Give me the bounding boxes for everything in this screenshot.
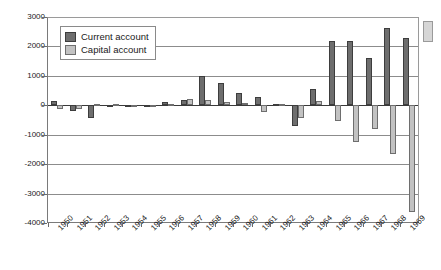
x-axis-tick-mark [233,223,234,227]
bar-group [233,18,252,222]
bar-capital-account [242,103,248,105]
x-axis-tick-mark [141,223,142,227]
bar-group [326,18,345,222]
y-axis-tick-label: 3000 [5,13,45,21]
bar-group [159,18,178,222]
x-axis-tick-mark [381,223,382,227]
bar-group [289,18,308,222]
legend-item-capital-account: Capital account [65,43,149,56]
bar-group [363,18,382,222]
bar-capital-account [353,105,359,142]
bar-capital-account [205,100,211,106]
bar-capital-account [113,104,119,106]
y-axis-tick-mark [42,164,47,165]
bar-current-account [88,105,94,117]
bar-capital-account [150,105,156,107]
bar-current-account [384,28,390,105]
x-axis-tick-mark [270,223,271,227]
x-axis-tick-mark [104,223,105,227]
y-axis-tick-label: -3000 [5,190,45,198]
y-axis-tick-mark [42,76,47,77]
bar-chart: 3000200010000-1000-2000-3000-4000 195019… [0,0,441,270]
y-axis-tick-label: -4000 [5,219,45,227]
y-axis-tick-label: 1000 [5,72,45,80]
bar-current-account [366,58,372,105]
x-axis-tick-mark [252,223,253,227]
bar-capital-account [372,105,378,128]
bar-group [400,18,419,222]
scroll-nub[interactable] [423,21,433,42]
x-axis-tick-mark [215,223,216,227]
x-axis-tick-mark [196,223,197,227]
x-axis-tick-mark [363,223,364,227]
bar-current-account [347,41,353,106]
legend-label-capital-account: Capital account [81,45,146,55]
x-axis-tick-mark [48,223,49,227]
legend-swatch-current-account [65,32,76,42]
bar-group [196,18,215,222]
y-axis-tick-label: 2000 [5,42,45,50]
bar-capital-account [168,104,174,106]
y-axis-tick-mark [42,135,47,136]
bar-current-account [403,38,409,106]
y-axis-tick-mark [42,223,47,224]
y-axis-tick-mark [42,17,47,18]
x-axis-tick-mark [85,223,86,227]
bar-capital-account [94,104,100,106]
bar-group [252,18,271,222]
x-axis-tick-mark [307,223,308,227]
y-axis-tick-label: -1000 [5,131,45,139]
bar-capital-account [76,105,82,109]
y-axis-tick-label: 0 [5,101,45,109]
x-axis-tick-mark [178,223,179,227]
bar-group [307,18,326,222]
bar-group [215,18,234,222]
bar-capital-account [390,105,396,154]
bar-group [344,18,363,222]
bar-capital-account [316,101,322,106]
y-axis-tick-mark [42,46,47,47]
x-axis-tick-mark [159,223,160,227]
bar-capital-account [279,104,285,106]
x-axis-tick-mark [289,223,290,227]
x-axis-tick-mark [344,223,345,227]
bar-capital-account [335,105,341,120]
bar-capital-account [409,105,415,212]
x-axis-tick-mark [326,223,327,227]
x-axis-tick-mark [400,223,401,227]
legend: Current account Capital account [60,26,156,60]
bar-capital-account [187,99,193,105]
y-axis-tick-label: -2000 [5,160,45,168]
x-axis-tick-mark [122,223,123,227]
bar-group [381,18,400,222]
legend-item-current-account: Current account [65,30,149,43]
bar-capital-account [298,105,304,118]
y-axis-tick-mark [42,194,47,195]
bar-capital-account [261,105,267,112]
bar-group [178,18,197,222]
y-axis-tick-mark [42,105,47,106]
bar-capital-account [57,105,63,109]
legend-label-current-account: Current account [81,32,149,42]
x-axis-tick-mark [67,223,68,227]
legend-swatch-capital-account [65,45,76,55]
bar-current-account [255,97,261,105]
bar-current-account [329,41,335,106]
bar-group [270,18,289,222]
bar-capital-account [224,102,230,105]
bar-capital-account [131,105,137,107]
